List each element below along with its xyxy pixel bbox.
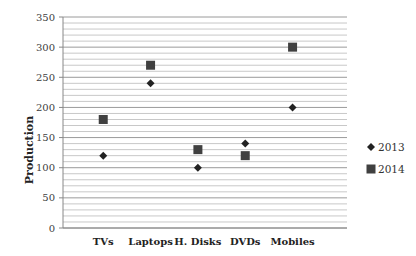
y-tick-label: 200 — [36, 102, 55, 113]
y-tick-label: 100 — [36, 162, 55, 173]
data-point-2013 — [194, 164, 202, 172]
x-category-label: TVs — [93, 236, 114, 247]
data-point-2013 — [99, 152, 107, 160]
y-axis-label: Production — [23, 116, 36, 184]
y-tick-label: 250 — [36, 72, 55, 83]
x-category-label: H. Disks — [174, 236, 221, 247]
data-point-2014 — [288, 43, 297, 52]
data-point-2014 — [193, 145, 202, 154]
data-point-2014 — [146, 61, 155, 70]
y-axis-ticks: 050100150200250300350 — [36, 12, 63, 234]
data-point-2013 — [241, 140, 249, 148]
legend-label-2013: 2013 — [378, 141, 405, 153]
x-category-label: Mobiles — [270, 236, 315, 247]
legend-marker-2014 — [367, 165, 376, 174]
data-point-2014 — [241, 151, 250, 160]
y-tick-label: 300 — [36, 42, 55, 53]
x-category-label: Laptops — [128, 236, 173, 247]
y-tick-label: 0 — [49, 223, 55, 234]
legend-marker-2013 — [367, 143, 375, 151]
legend: 20132014 — [367, 141, 406, 175]
y-tick-label: 150 — [36, 132, 55, 143]
data-point-2014 — [99, 115, 108, 124]
y-tick-label: 350 — [36, 12, 55, 23]
data-point-2013 — [147, 79, 155, 87]
x-axis-categories: TVsLaptopsH. DisksDVDsMobiles — [93, 236, 315, 247]
data-point-2013 — [289, 103, 297, 111]
y-tick-label: 50 — [42, 192, 55, 203]
scatter-chart: 050100150200250300350 TVsLaptopsH. Disks… — [0, 0, 416, 256]
legend-label-2014: 2014 — [378, 163, 405, 175]
x-category-label: DVDs — [230, 236, 261, 247]
